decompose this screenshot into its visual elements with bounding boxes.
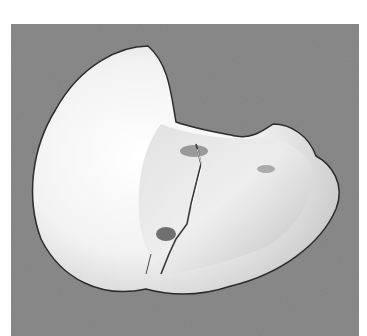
tooth-illustration: [11, 24, 359, 336]
tooth-photograph: [11, 24, 359, 336]
